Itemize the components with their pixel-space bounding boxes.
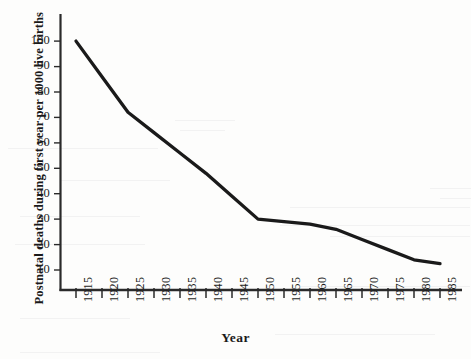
x-tick-label: 1965 [341, 277, 356, 302]
x-axis-title: Year [0, 330, 471, 346]
x-tick-label: 1970 [367, 277, 382, 302]
x-tick-label: 1985 [445, 277, 460, 302]
x-tick-label: 1925 [133, 277, 148, 302]
x-tick-label: 1945 [237, 277, 252, 302]
x-tick-label: 1950 [263, 277, 278, 302]
x-tick-label: 1940 [211, 277, 226, 302]
y-tick-marks [54, 41, 60, 270]
x-tick-label: 1935 [185, 277, 200, 302]
x-tick-label: 1930 [159, 277, 174, 302]
chart-figure: 100 90 80 70 60 50 40 30 20 10 1915 1920… [0, 0, 471, 359]
x-tick-label: 1975 [393, 277, 408, 302]
plot-area [0, 0, 471, 359]
x-tick-label: 1955 [289, 277, 304, 302]
data-series-line [76, 41, 440, 264]
x-tick-label: 1980 [419, 277, 434, 302]
y-axis-title: Postnatal deaths during first year per 1… [32, 35, 47, 305]
x-tick-label: 1915 [81, 277, 96, 302]
x-tick-label: 1920 [107, 277, 122, 302]
x-tick-label: 1960 [315, 277, 330, 302]
